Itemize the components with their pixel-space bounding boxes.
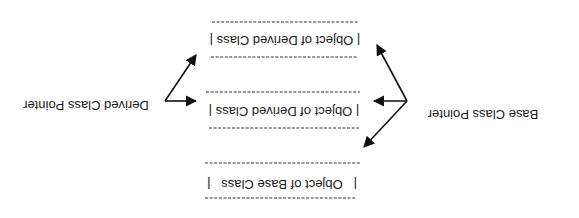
arrow-to-derived-1-icon [377,45,407,101]
diagram-svg: | Object of Derived Class | | Object of … [0,0,579,218]
object-box-base: | Object of Base Class | [205,163,360,198]
object-derived-label-2: | Object of Derived Class | [209,104,360,119]
arrow-to-base-icon [364,101,407,147]
arrow-to-derived-1-icon [165,55,196,101]
object-base-label: | Object of Base Class | [207,177,357,192]
derived-class-pointer: Derived Class Pointer [22,55,196,113]
base-class-pointer: Base Class Pointer [364,45,538,147]
base-class-pointer-label: Base Class Pointer [427,107,538,122]
object-box-derived-1: | Object of Derived Class | [210,22,361,57]
derived-class-pointer-label: Derived Class Pointer [22,98,148,113]
object-box-derived-2: | Object of Derived Class | [206,92,360,128]
object-derived-label-1: | Object of Derived Class | [210,33,361,48]
class-pointer-diagram: | Object of Derived Class | | Object of … [0,0,579,218]
